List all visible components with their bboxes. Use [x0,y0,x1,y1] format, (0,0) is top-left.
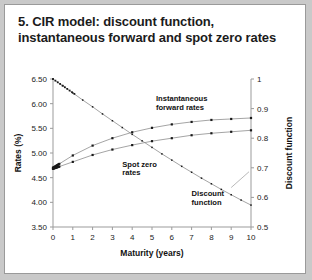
x-ticklabel: 0 [51,233,56,242]
data-point [230,118,232,120]
data-point [141,140,143,142]
data-point [62,85,64,87]
data-point [230,194,232,196]
data-point [171,137,173,139]
y-ticklabel-left: 3.50 [31,223,47,232]
y-axis-title-left: Rates (%) [13,133,23,172]
data-point [250,117,252,119]
data-point [250,129,252,131]
data-point [82,99,84,101]
annotation-discount_function: function [192,198,222,207]
data-point [73,93,75,95]
y-ticklabel-left: 6.00 [31,100,47,109]
data-point [111,148,113,150]
y-ticklabel-right: 0.9 [257,105,269,114]
data-point [151,140,153,142]
x-ticklabel: 10 [247,233,256,242]
data-point [230,131,232,133]
x-ticklabel: 5 [150,233,155,242]
data-point [131,144,133,146]
data-point [71,91,73,93]
y-ticklabel-right: 0.8 [257,134,269,143]
x-ticklabel: 4 [130,233,135,242]
data-point [201,177,203,179]
data-point [112,120,114,122]
x-ticklabel: 2 [90,233,95,242]
y-ticklabel-left: 4.00 [31,198,47,207]
data-point [191,171,193,173]
data-point [69,90,71,92]
x-ticklabel: 6 [170,233,175,242]
data-point [64,86,66,88]
data-point [161,153,163,155]
data-point [240,199,242,201]
annotation-instantaneous_forward_rates: forward rates [156,103,204,112]
y-ticklabel-left: 5.00 [31,149,47,158]
chart-area: 3.504.004.505.005.506.006.500.50.60.70.8… [5,5,307,275]
x-ticklabel: 7 [189,233,194,242]
data-point [122,127,124,129]
data-point [72,154,74,156]
data-point [191,134,193,136]
x-ticklabel: 1 [71,233,76,242]
data-point [92,154,94,156]
data-point [210,119,212,121]
x-axis-title: Maturity (years) [120,248,183,258]
y-ticklabel-right: 0.7 [257,164,269,173]
figure-panel: 5. CIR model: discount function, instant… [4,4,306,274]
y-ticklabel-right: 0.5 [257,223,269,232]
data-point [171,123,173,125]
data-point [92,145,94,147]
data-point [131,131,133,133]
data-point [58,163,60,165]
data-point [57,81,59,83]
x-ticklabel: 8 [209,233,214,242]
annotation-spot_zero_rates: rates [122,168,140,177]
data-point [171,159,173,161]
data-point [210,132,212,134]
data-point [250,204,252,206]
y-ticklabel-left: 6.50 [31,75,47,84]
data-point [151,147,153,149]
data-point [102,113,104,115]
data-point [54,80,56,82]
data-point [211,183,213,185]
data-point [52,78,54,80]
x-ticklabel: 3 [110,233,115,242]
y-axis-title-right: Discount function [284,117,294,189]
data-point [92,106,94,108]
data-point [58,166,60,168]
data-point [191,121,193,123]
annotation-leader-discount-function [231,172,249,188]
chart-svg: 3.504.004.505.005.506.006.500.50.60.70.8… [5,5,307,275]
data-point [111,137,113,139]
data-point [151,127,153,129]
x-ticklabel: 9 [229,233,234,242]
y-ticklabel-left: 4.50 [31,174,47,183]
data-point [59,83,61,85]
data-point [72,161,74,163]
data-point [181,166,183,168]
y-ticklabel-right: 1 [257,75,262,84]
y-ticklabel-left: 5.50 [31,124,47,133]
y-ticklabel-right: 0.6 [257,193,269,202]
data-point [66,88,68,90]
data-point [131,134,133,136]
